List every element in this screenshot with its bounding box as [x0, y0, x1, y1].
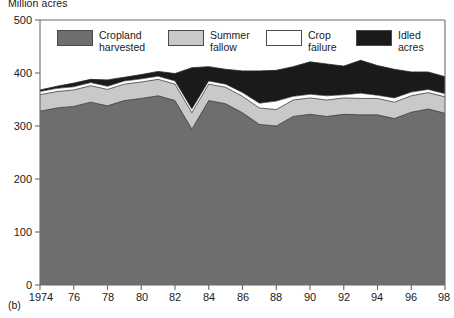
legend-item-idled-acres[interactable]: Idled acres	[356, 30, 424, 53]
legend-label-crop-failure: Crop failure	[308, 30, 337, 53]
legend-label-summer-fallow: Summer fallow	[210, 30, 250, 53]
legend-item-summer-fallow[interactable]: Summer fallow	[168, 30, 250, 53]
legend-label-idled-acres: Idled acres	[398, 30, 424, 53]
legend-swatch-crop-failure	[266, 30, 302, 46]
plot-areas	[40, 60, 445, 285]
figure-panel: Million acres (b) 500 400 300 200 100 0 …	[0, 0, 454, 318]
legend-swatch-summer-fallow	[168, 30, 204, 46]
legend-label-cropland-harvested: Cropland harvested	[99, 30, 145, 53]
area-cropland-harvested	[40, 96, 445, 285]
legend-item-cropland-harvested[interactable]: Cropland harvested	[57, 30, 145, 53]
legend-item-crop-failure[interactable]: Crop failure	[266, 30, 337, 53]
legend-swatch-cropland-harvested	[57, 30, 93, 46]
legend-swatch-idled-acres	[356, 30, 392, 46]
